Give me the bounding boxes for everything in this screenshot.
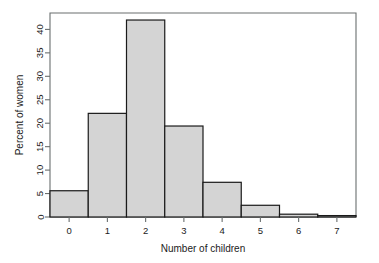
x-tick-label-6: 6 [296,225,301,236]
y-tick-label-25: 25 [35,94,46,105]
histogram-svg: 0 5 10 15 20 25 30 35 40 Percent of wome… [0,0,379,263]
x-tick-label-3: 3 [181,225,186,236]
bar-1 [88,113,126,217]
y-tick-label-10: 10 [35,165,46,176]
bar-7 [318,216,356,217]
histogram-figure: 0 5 10 15 20 25 30 35 40 Percent of wome… [0,0,379,263]
y-tick-label-20: 20 [35,118,46,129]
bar-6 [280,214,318,217]
y-tick-label-40: 40 [35,24,46,35]
y-tick-label-30: 30 [35,71,46,82]
y-tick-label-0: 0 [35,214,46,219]
x-tick-label-1: 1 [105,225,110,236]
y-tick-label-15: 15 [35,141,46,152]
bar-4 [203,182,241,217]
bar-3 [165,126,203,217]
bar-0 [50,191,88,217]
bar-2 [127,20,165,217]
x-tick-label-7: 7 [334,225,339,236]
x-tick-label-2: 2 [143,225,148,236]
y-axis-title: Percent of women [14,75,25,156]
y-tick-label-5: 5 [35,191,46,196]
x-tick-label-0: 0 [66,225,71,236]
y-tick-label-35: 35 [35,48,46,59]
x-axis-title: Number of children [161,243,245,254]
x-tick-label-5: 5 [258,225,263,236]
bar-5 [241,205,279,217]
x-tick-label-4: 4 [219,225,224,236]
